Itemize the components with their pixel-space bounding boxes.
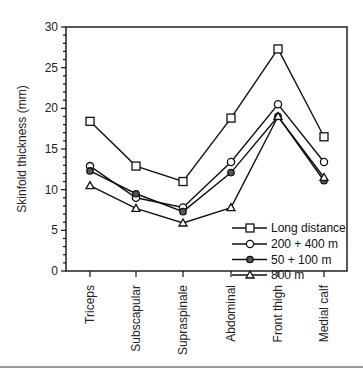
bottom-divider <box>0 366 363 368</box>
y-tick-label: 0 <box>51 264 58 278</box>
legend: Long distance200 + 400 m50 + 100 m800 m <box>232 221 346 282</box>
y-axis-title: Skinfold thickness (mm) <box>15 85 29 212</box>
legend-label: Long distance <box>271 221 346 235</box>
legend-label: 200 + 400 m <box>271 237 338 251</box>
triangle-marker-icon <box>132 204 140 211</box>
x-category-label: Front thigh <box>271 285 285 342</box>
legend-item: 200 + 400 m <box>232 237 338 251</box>
x-category-label: Supraspinale <box>176 285 190 355</box>
circle-filled-marker-icon <box>133 191 139 197</box>
square-marker-icon <box>86 117 94 125</box>
y-tick-label: 20 <box>45 101 59 115</box>
legend-label: 50 + 100 m <box>271 253 331 267</box>
circle-open-marker-icon <box>227 158 234 165</box>
legend-item: Long distance <box>232 221 346 235</box>
series-line <box>86 101 327 211</box>
x-axis: TricepsSubscapularSupraspinaleAbdominalF… <box>83 271 331 355</box>
y-tick-label: 15 <box>45 142 59 156</box>
square-marker-icon <box>179 178 187 186</box>
skinfold-line-chart: 051015202530 TricepsSubscapularSupraspin… <box>0 0 363 375</box>
x-category-label: Triceps <box>83 285 97 324</box>
circle-filled-marker-icon <box>180 208 186 214</box>
circle-filled-marker-icon <box>87 168 93 174</box>
series-line <box>87 113 327 215</box>
circle-open-marker-icon <box>320 158 327 165</box>
x-category-label: Subscapular <box>129 285 143 352</box>
triangle-marker-icon <box>86 182 94 189</box>
circle-open-marker-icon <box>246 240 253 247</box>
square-marker-icon <box>320 133 328 141</box>
y-axis: 051015202530 <box>45 20 66 278</box>
square-marker-icon <box>132 162 140 170</box>
data-series <box>86 45 328 226</box>
square-marker-icon <box>274 45 282 53</box>
y-tick-label: 10 <box>45 183 59 197</box>
y-tick-label: 25 <box>45 61 59 75</box>
square-marker-icon <box>227 114 235 122</box>
series-line <box>86 45 328 186</box>
x-category-label: Abdominal <box>224 285 238 342</box>
x-category-label: Medial calf <box>317 284 331 342</box>
square-marker-icon <box>246 224 254 232</box>
legend-item: 800 m <box>232 268 304 282</box>
legend-item: 50 + 100 m <box>232 253 331 267</box>
triangle-marker-icon <box>227 204 235 211</box>
legend-label: 800 m <box>271 268 304 282</box>
circle-open-marker-icon <box>274 101 281 108</box>
y-tick-label: 5 <box>51 223 58 237</box>
circle-filled-marker-icon <box>228 169 234 175</box>
y-tick-label: 30 <box>45 20 59 34</box>
circle-filled-marker-icon <box>247 256 253 262</box>
series-line <box>86 112 328 226</box>
